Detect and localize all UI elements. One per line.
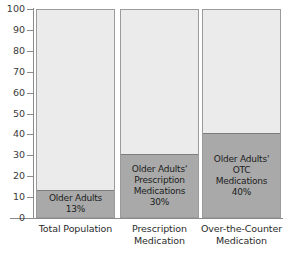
category-label-3: Over-the-CounterMedication	[190, 223, 283, 247]
y-tick-60	[27, 93, 33, 94]
bar-chart: 0102030405060708090100 Older Adults13%Ol…	[0, 0, 283, 256]
bar-label-line: 40%	[232, 187, 251, 198]
bar-label-line: Older Adults	[49, 193, 102, 204]
bar-3: Older Adults'OTCMedications40%	[202, 9, 281, 218]
y-tick-label-20: 20	[0, 171, 25, 181]
y-tick-label-80: 80	[0, 46, 25, 56]
y-axis-line	[33, 8, 34, 219]
y-tick-80	[27, 51, 33, 52]
y-tick-90	[27, 30, 33, 31]
y-tick-30	[27, 155, 33, 156]
bar-label-line: OTC	[233, 165, 251, 176]
y-tick-100	[27, 9, 33, 10]
y-tick-50	[27, 114, 33, 115]
y-tick-label-90: 90	[0, 25, 25, 35]
y-tick-label-10: 10	[0, 192, 25, 202]
y-tick-10	[27, 197, 33, 198]
bar-2: Older Adults'PrescriptionMedications30%	[120, 9, 199, 218]
bar-label-line: Prescription	[134, 175, 185, 186]
bar-segment-older-adults-1: Older Adults13%	[37, 190, 114, 217]
y-tick-label-60: 60	[0, 88, 25, 98]
x-axis-line	[10, 218, 283, 219]
y-tick-20	[27, 176, 33, 177]
bar-label-line: Older Adults'	[132, 164, 187, 175]
bar-label-line: 13%	[66, 204, 85, 215]
category-label-line: Medication	[190, 235, 283, 247]
y-tick-0	[27, 218, 33, 219]
y-tick-label-100: 100	[0, 4, 25, 14]
bar-label-line: Older Adults'	[214, 154, 269, 165]
bar-segment-older-adults-2: Older Adults'PrescriptionMedications30%	[121, 154, 198, 217]
y-tick-label-70: 70	[0, 67, 25, 77]
bar-label-line: Medications	[216, 176, 268, 187]
bar-label-line: Medications	[134, 186, 186, 197]
bar-label-line: 30%	[150, 197, 169, 208]
y-tick-label-30: 30	[0, 150, 25, 160]
y-tick-40	[27, 134, 33, 135]
y-tick-70	[27, 72, 33, 73]
category-label-line: Over-the-Counter	[190, 223, 283, 235]
bar-1: Older Adults13%	[36, 9, 115, 218]
y-tick-label-50: 50	[0, 109, 25, 119]
bar-segment-older-adults-3: Older Adults'OTCMedications40%	[203, 133, 280, 217]
y-tick-label-40: 40	[0, 129, 25, 139]
y-tick-label-0: 0	[0, 213, 25, 223]
